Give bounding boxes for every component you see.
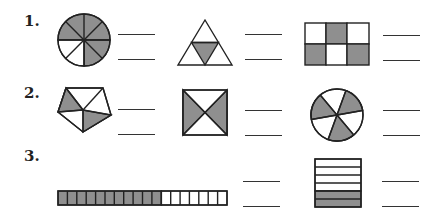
- circle-sixths-figure: [309, 87, 365, 143]
- answer-blank-2c-top[interactable]: [383, 110, 420, 111]
- answer-blank-2a-top[interactable]: [118, 109, 155, 110]
- rectangle-grid-figure: [304, 22, 370, 66]
- stacked-rows-figure: [314, 158, 363, 208]
- answer-blank-1a-top[interactable]: [118, 34, 155, 35]
- problem-number-2: 2.: [24, 84, 40, 102]
- answer-blank-3b-bottom[interactable]: [382, 206, 419, 207]
- answer-blank-1b-top[interactable]: [245, 34, 282, 35]
- problem-number-3: 3.: [24, 147, 40, 165]
- problem-number-1: 1.: [24, 12, 40, 30]
- answer-blank-3a-top[interactable]: [243, 181, 280, 182]
- answer-blank-2b-top[interactable]: [245, 110, 282, 111]
- answer-blank-2a-bottom[interactable]: [118, 134, 155, 135]
- answer-blank-1b-bottom[interactable]: [245, 59, 282, 60]
- answer-blank-2c-bottom[interactable]: [383, 135, 420, 136]
- pentagon-fifths-figure: [55, 84, 115, 136]
- fraction-bar-figure: [57, 190, 229, 207]
- triangle-quarters-figure: [177, 19, 233, 66]
- answer-blank-3b-top[interactable]: [382, 181, 419, 182]
- square-diagonals-figure: [182, 89, 228, 136]
- answer-blank-3a-bottom[interactable]: [243, 206, 280, 207]
- answer-blank-1a-bottom[interactable]: [118, 59, 155, 60]
- circle-eighths-figure: [57, 13, 111, 67]
- answer-blank-1c-top[interactable]: [383, 35, 420, 36]
- answer-blank-1c-bottom[interactable]: [383, 60, 420, 61]
- answer-blank-2b-bottom[interactable]: [245, 135, 282, 136]
